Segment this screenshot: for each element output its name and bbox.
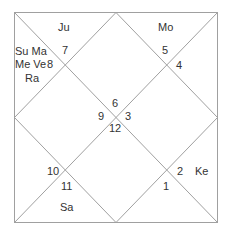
sign-12: 12 xyxy=(109,122,121,134)
sign-4: 4 xyxy=(176,59,182,71)
sign-7: 7 xyxy=(62,44,68,56)
planets-left-3: Ra xyxy=(25,72,39,84)
sign-11: 11 xyxy=(61,180,72,192)
planet-mo: Mo xyxy=(158,21,173,33)
sign-2: 2 xyxy=(177,165,183,177)
sign-8: 8 xyxy=(47,58,53,70)
sign-3: 3 xyxy=(125,110,131,122)
planet-ju: Ju xyxy=(58,21,70,33)
chart-lines xyxy=(0,0,225,234)
sign-5: 5 xyxy=(162,44,168,56)
planet-ke: Ke xyxy=(195,165,208,177)
sign-10: 10 xyxy=(47,165,59,177)
planets-left-2: Me Ve xyxy=(15,58,46,70)
planets-left-1: Su Ma xyxy=(15,45,47,57)
planet-sa: Sa xyxy=(60,201,73,213)
sign-1: 1 xyxy=(163,180,169,192)
sign-9: 9 xyxy=(98,110,104,122)
sign-6: 6 xyxy=(112,97,118,109)
